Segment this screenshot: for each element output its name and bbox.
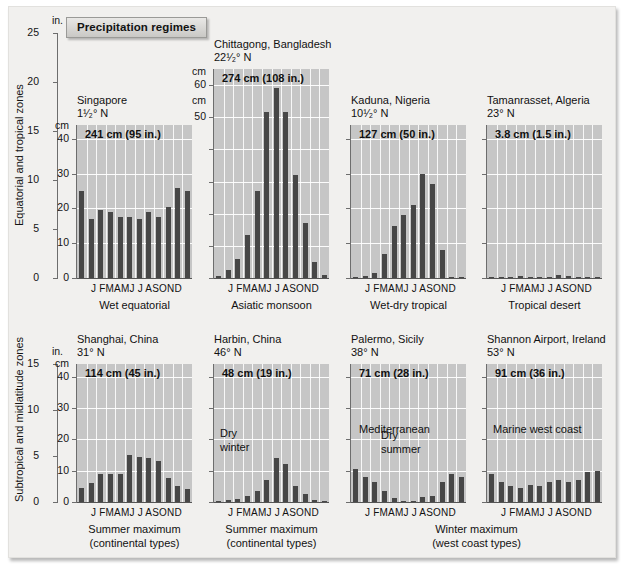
plot-baseline bbox=[77, 502, 192, 503]
cm-axis bbox=[184, 7, 214, 570]
precipitation-bar bbox=[166, 207, 171, 278]
precipitation-bar bbox=[264, 112, 269, 278]
precipitation-bar bbox=[293, 175, 298, 278]
precipitation-bar bbox=[175, 188, 180, 278]
precipitation-plot: 127 cm (50 in.) bbox=[351, 125, 466, 278]
grid-line-vertical bbox=[125, 125, 126, 278]
precipitation-bar bbox=[353, 469, 358, 502]
chart-latitude: 53° N bbox=[487, 346, 515, 359]
precipitation-bar bbox=[363, 477, 368, 502]
precipitation-plot: 48 cm (19 in.)Dry winter bbox=[214, 364, 329, 502]
grid-line-vertical bbox=[163, 125, 164, 278]
precipitation-bar bbox=[420, 174, 425, 278]
grid-line-vertical bbox=[583, 364, 584, 502]
annual-total-label: 91 cm (36 in.) bbox=[495, 367, 565, 379]
precipitation-bar bbox=[528, 485, 533, 502]
grid-line-vertical bbox=[163, 364, 164, 502]
grid-line-horizontal bbox=[487, 408, 602, 409]
grid-line-horizontal bbox=[351, 208, 466, 209]
chart-title: Harbin, China bbox=[214, 333, 281, 346]
grid-line-horizontal bbox=[487, 439, 602, 440]
grid-line-horizontal bbox=[214, 182, 329, 183]
grid-line-vertical bbox=[506, 125, 507, 278]
grid-line-vertical bbox=[573, 125, 574, 278]
grid-line-vertical bbox=[173, 125, 174, 278]
annual-total-label: 241 cm (95 in.) bbox=[85, 128, 161, 140]
regime-caption: Asiatic monsoon bbox=[200, 298, 343, 312]
plot-baseline bbox=[351, 502, 466, 503]
precipitation-plot: 241 cm (95 in.) bbox=[77, 125, 192, 278]
precipitation-plot: 71 cm (28 in.)MediterraneanDry summer bbox=[351, 364, 466, 502]
grid-line-vertical bbox=[252, 364, 253, 502]
axis-tick-label: 15 bbox=[27, 357, 39, 369]
month-axis-labels: J FMAMJ J ASOND bbox=[79, 283, 194, 294]
grid-line-vertical bbox=[87, 125, 88, 278]
month-axis-labels: J FMAMJ J ASOND bbox=[353, 507, 468, 518]
month-axis-labels: J FMAMJ J ASOND bbox=[489, 507, 604, 518]
precipitation-bar bbox=[489, 474, 494, 502]
grid-line-vertical bbox=[554, 125, 555, 278]
chart-latitude: 10¹⁄₂° N bbox=[351, 107, 388, 120]
grid-line-vertical bbox=[361, 125, 362, 278]
grid-line-vertical bbox=[300, 364, 301, 502]
cm-unit-label: cm bbox=[55, 357, 69, 369]
cm-axis bbox=[321, 7, 351, 570]
month-axis-labels: J FMAMJ J ASOND bbox=[489, 283, 604, 294]
precipitation-bar bbox=[245, 235, 250, 278]
precipitation-bar bbox=[118, 474, 123, 502]
grid-line-vertical bbox=[497, 125, 498, 278]
precipitation-bar bbox=[440, 482, 445, 502]
precipitation-bar bbox=[98, 474, 103, 502]
grid-line-vertical bbox=[319, 364, 320, 502]
regime-caption: Summer maximum (continental types) bbox=[63, 522, 206, 550]
precipitation-bar bbox=[303, 494, 308, 502]
precipitation-bar bbox=[79, 488, 84, 502]
axis-tick-label: 10 bbox=[27, 403, 39, 415]
annual-total-label: 274 cm (108 in.) bbox=[222, 72, 304, 84]
precipitation-bar bbox=[98, 210, 103, 278]
grid-line-horizontal bbox=[77, 439, 192, 440]
grid-line-vertical bbox=[380, 125, 381, 278]
precipitation-plot: 114 cm (45 in.) bbox=[77, 364, 192, 502]
grid-line-vertical bbox=[115, 125, 116, 278]
grid-line-vertical bbox=[447, 364, 448, 502]
regime-caption: Tropical desert bbox=[473, 298, 616, 312]
precipitation-bar bbox=[430, 184, 435, 278]
cm-axis bbox=[457, 7, 487, 570]
grid-line-vertical bbox=[106, 364, 107, 502]
grid-line-vertical bbox=[182, 125, 183, 278]
precipitation-bar bbox=[401, 215, 406, 278]
precipitation-bar bbox=[118, 217, 123, 278]
regime-note: Marine west coast bbox=[493, 422, 582, 436]
grid-line-vertical bbox=[592, 364, 593, 502]
grid-line-vertical bbox=[144, 364, 145, 502]
chart-title: Shanghai, China bbox=[77, 333, 158, 346]
chart-latitude: 1¹⁄₂° N bbox=[77, 107, 108, 120]
grid-line-vertical bbox=[87, 364, 88, 502]
annual-total-label: 127 cm (50 in.) bbox=[359, 128, 435, 140]
plot-baseline bbox=[214, 278, 329, 279]
cm-axis-tick-label: 40 bbox=[57, 370, 69, 382]
precipitation-bar bbox=[255, 491, 260, 502]
grid-line-horizontal bbox=[214, 214, 329, 215]
precipitation-bar bbox=[146, 458, 151, 502]
plot-baseline bbox=[487, 502, 602, 503]
annual-total-label: 3.8 cm (1.5 in.) bbox=[495, 128, 571, 140]
precipitation-bar bbox=[372, 482, 377, 502]
precipitation-bar bbox=[566, 482, 571, 502]
grid-line-horizontal bbox=[214, 149, 329, 150]
precipitation-bar bbox=[312, 262, 317, 278]
precipitation-bar bbox=[411, 205, 416, 278]
precipitation-bar bbox=[576, 480, 581, 502]
precipitation-bar bbox=[547, 482, 552, 502]
precipitation-bar bbox=[146, 212, 151, 278]
chart-title: Tamanrasset, Algeria bbox=[487, 94, 590, 107]
grid-line-vertical bbox=[106, 125, 107, 278]
precipitation-bar bbox=[283, 464, 288, 502]
precipitation-bar bbox=[537, 486, 542, 502]
grid-line-horizontal bbox=[487, 243, 602, 244]
precipitation-bar bbox=[79, 191, 84, 278]
precipitation-bar bbox=[274, 88, 279, 278]
month-axis-labels: J FMAMJ J ASOND bbox=[79, 507, 194, 518]
cm-axis: 010203040cm bbox=[47, 7, 77, 570]
